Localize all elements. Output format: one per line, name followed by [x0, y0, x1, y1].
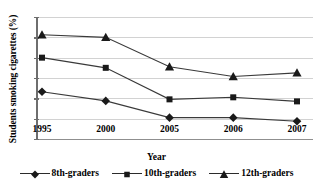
legend-item: 10th-graders [112, 168, 196, 178]
legend-marker [20, 169, 50, 178]
data-point-marker [39, 55, 45, 61]
x-axis-title: Year [0, 152, 313, 162]
x-axis-tick-label: 1995 [20, 124, 64, 134]
line-chart: Students smoking cigarettes (%) 04812162… [0, 0, 313, 186]
gridline [36, 139, 313, 140]
data-point-marker [229, 113, 238, 122]
legend-label: 10th-graders [144, 168, 196, 178]
x-axis-tick-label: 2000 [84, 124, 128, 134]
x-axis-tick-label: 2005 [148, 124, 192, 134]
data-point-marker [37, 30, 46, 38]
legend-item: 12th-graders [209, 168, 293, 178]
data-point-marker [292, 68, 301, 76]
legend-item: 8th-graders [20, 168, 100, 178]
legend-label: 12th-graders [241, 168, 293, 178]
plot-area: 04812162024 [36, 17, 313, 139]
chart-title-remnant [80, 0, 230, 6]
data-point-marker [294, 98, 300, 104]
data-point-marker [38, 87, 47, 96]
x-axis-tick-label: 2006 [211, 124, 255, 134]
chart-legend: 8th-graders10th-graders12th-graders [0, 168, 313, 178]
data-point-marker [230, 94, 236, 100]
legend-label: 8th-graders [52, 168, 100, 178]
data-point-marker [167, 96, 173, 102]
legend-marker [112, 169, 142, 178]
data-point-marker [165, 113, 174, 122]
y-axis-title: Students smoking cigarettes (%) [8, 9, 18, 149]
legend-marker [209, 169, 239, 178]
y-axis-tick [34, 139, 39, 140]
data-point-marker [165, 62, 174, 70]
data-point-marker [101, 97, 110, 106]
series-layer [36, 17, 313, 139]
data-point-marker [103, 65, 109, 71]
x-axis-tick-label: 2007 [275, 124, 313, 134]
